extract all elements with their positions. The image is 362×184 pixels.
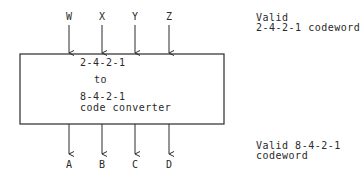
output-label-a: A	[66, 160, 72, 170]
input-label-y: Y	[132, 12, 138, 22]
input-label-x: X	[99, 12, 105, 22]
output-label-b: B	[99, 160, 105, 170]
block-text-to: to	[94, 74, 107, 85]
output-label-c: C	[132, 160, 138, 170]
input-label-w: W	[66, 12, 72, 22]
block-text-from-code: 2-4-2-1	[80, 57, 126, 68]
block-text-to-code: 8-4-2-1	[80, 91, 126, 102]
input-label-z: Z	[166, 12, 172, 22]
block-text-converter: code converter	[80, 102, 171, 113]
input-note-line2: 2-4-2-1 codeword	[256, 22, 360, 33]
output-label-d: D	[166, 160, 172, 170]
output-note-line2: codeword	[256, 150, 308, 161]
